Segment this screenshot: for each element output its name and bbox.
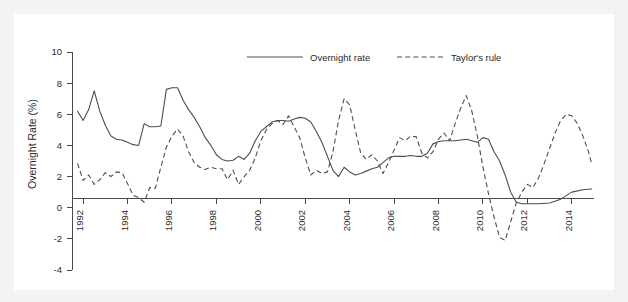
figure-panel: -4-20246810 1992199419961998200020022004… bbox=[14, 14, 614, 290]
series-line-taylor-s-rule bbox=[78, 96, 592, 241]
y-axis-title: Overnight Rate (%) bbox=[26, 99, 38, 189]
y-tick-label: 0 bbox=[57, 202, 62, 213]
x-tick-group: 1992199419961998200020022004200620082010… bbox=[74, 198, 574, 231]
chart-legend: Overnight rate Taylor's rule bbox=[247, 52, 501, 63]
x-tick-label: 2010 bbox=[474, 210, 485, 231]
y-tick-label: 6 bbox=[57, 109, 62, 120]
x-tick-label: 2000 bbox=[252, 210, 263, 231]
y-tick-group: -4-20246810 bbox=[51, 46, 72, 275]
x-axis: 1992199419961998200020022004200620082010… bbox=[72, 198, 594, 231]
y-tick-label: 10 bbox=[51, 46, 62, 57]
x-tick-label: 2002 bbox=[296, 210, 307, 231]
x-tick-label: 2012 bbox=[518, 210, 529, 231]
y-tick-label: 2 bbox=[57, 171, 62, 182]
y-tick-label: -2 bbox=[54, 233, 62, 244]
x-tick-label: 2006 bbox=[385, 210, 396, 231]
y-axis: -4-20246810 bbox=[51, 46, 72, 275]
series-line-overnight-rate bbox=[78, 88, 592, 204]
chart-canvas: -4-20246810 1992199419961998200020022004… bbox=[14, 14, 614, 290]
y-tick-label: 8 bbox=[57, 78, 62, 89]
legend-label-overnight-rate: Overnight rate bbox=[310, 52, 370, 63]
x-tick-label: 2004 bbox=[341, 210, 352, 231]
y-tick-label: 4 bbox=[57, 140, 62, 151]
x-tick-label: 2008 bbox=[430, 210, 441, 231]
x-tick-label: 1998 bbox=[207, 210, 218, 231]
data-series-group bbox=[78, 88, 592, 241]
x-tick-label: 1994 bbox=[119, 210, 130, 231]
x-tick-label: 1992 bbox=[74, 210, 85, 231]
legend-label-taylors-rule: Taylor's rule bbox=[451, 52, 501, 63]
x-tick-label: 1996 bbox=[163, 210, 174, 231]
y-tick-label: -4 bbox=[54, 264, 62, 275]
screenshot-root: -4-20246810 1992199419961998200020022004… bbox=[0, 0, 628, 302]
x-tick-label: 2014 bbox=[563, 210, 574, 231]
